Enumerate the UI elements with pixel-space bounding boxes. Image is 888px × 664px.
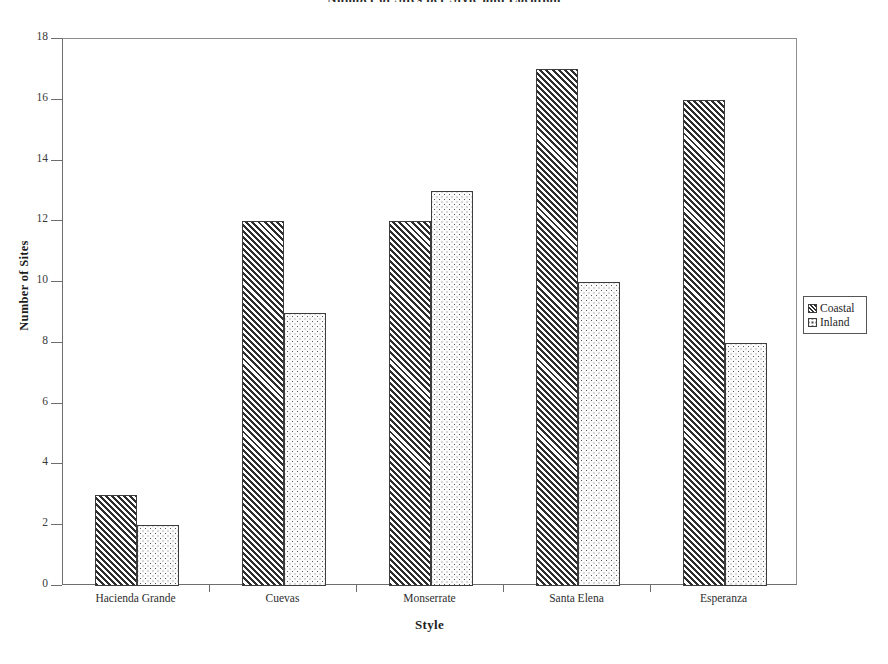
legend-item-coastal[interactable]: Coastal [808,301,862,315]
bar-coastal-cuevas[interactable] [242,221,284,586]
bar-coastal-monserrate[interactable] [389,221,431,586]
y-axis-tick-mark [51,99,62,100]
y-axis-tick-mark [51,38,62,39]
y-axis-label: Number of Sites [17,216,32,356]
bar-coastal-esperanza[interactable] [683,100,725,586]
y-axis-tick-label: 0 [42,577,48,589]
legend-label-coastal: Coastal [820,302,855,315]
y-axis-tick-label: 6 [42,395,48,407]
x-axis-label: Style [62,617,797,633]
x-axis-tick-mark [209,585,210,592]
bar-inland-cuevas[interactable] [284,313,326,587]
chart-legend: Coastal Inland [803,296,867,334]
bar-inland-monserrate[interactable] [431,191,473,586]
y-axis-tick-label: 14 [37,152,49,164]
x-axis-category-label: Santa Elena [503,592,650,604]
plot-area [62,38,797,585]
legend-item-inland[interactable]: Inland [808,315,862,329]
y-axis-tick-mark [51,403,62,404]
y-axis-tick-mark [51,524,62,525]
bar-inland-santa-elena[interactable] [578,282,620,586]
y-axis-tick-label: 18 [37,30,49,42]
legend-swatch-inland-icon [808,318,817,327]
y-axis-tick-mark [51,160,62,161]
bar-inland-esperanza[interactable] [725,343,767,586]
bar-coastal-hacienda-grande[interactable] [95,495,137,586]
y-axis-tick-label: 10 [37,273,49,285]
y-axis-tick-mark [51,585,62,586]
legend-label-inland: Inland [820,316,849,329]
y-axis-tick-label: 4 [42,455,48,467]
x-axis-category-label: Hacienda Grande [62,592,209,604]
y-axis-tick-mark [51,342,62,343]
bar-inland-hacienda-grande[interactable] [137,525,179,586]
legend-swatch-coastal-icon [808,304,817,313]
y-axis-tick-label: 16 [37,91,49,103]
y-axis-tick-mark [51,220,62,221]
y-axis-tick-mark [51,463,62,464]
x-axis-category-label: Monserrate [356,592,503,604]
y-axis-tick-label: 8 [42,334,48,346]
x-axis-category-label: Esperanza [650,592,797,604]
bar-chart-figure: Number of Sites per Style and Location N… [0,0,888,664]
x-axis-tick-mark [356,585,357,592]
y-axis-tick-mark [51,281,62,282]
bar-coastal-santa-elena[interactable] [536,69,578,586]
x-axis-tick-mark [503,585,504,592]
x-axis-tick-mark [650,585,651,592]
x-axis-category-label: Cuevas [209,592,356,604]
chart-title: Number of Sites per Style and Location [0,0,888,2]
y-axis-tick-label: 2 [42,516,48,528]
y-axis-tick-label: 12 [37,212,49,224]
